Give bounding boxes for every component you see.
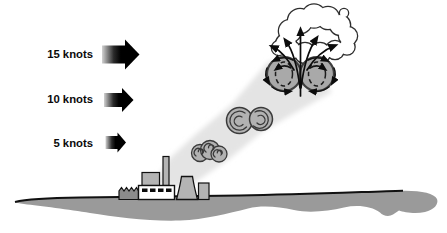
diagram-canvas: 15 knots 10 knots 5 knots [0, 0, 447, 233]
factory-rooftop-unit [142, 173, 160, 186]
wind-speed-label: 15 knots [47, 48, 93, 60]
wind-arrow-icon [106, 133, 127, 153]
wind-speed-row-5: 5 knots [53, 133, 126, 153]
factory-side-building [199, 183, 210, 200]
wind-speed-label: 5 knots [53, 137, 93, 149]
plume-rise-diagram: 15 knots 10 knots 5 knots [0, 0, 447, 233]
wind-speed-row-15: 15 knots [47, 40, 139, 70]
wind-legend: 15 knots 10 knots 5 knots [47, 40, 139, 153]
smokestack [163, 157, 169, 186]
cumulus-cloud [272, 5, 357, 64]
wind-speed-row-10: 10 knots [47, 88, 133, 112]
wind-speed-label: 10 knots [47, 93, 93, 105]
smoke-puff-pair [227, 108, 273, 134]
wind-arrow-icon [102, 40, 140, 70]
sawtooth-factory-building [119, 188, 139, 200]
wind-arrow-icon [104, 88, 134, 112]
factory-main-building [139, 186, 175, 200]
